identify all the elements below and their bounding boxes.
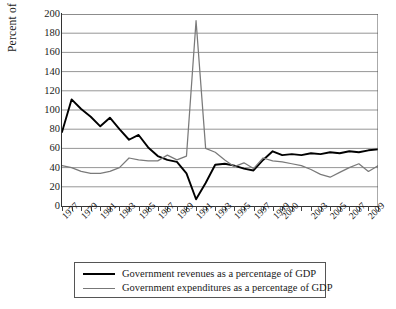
legend-item-revenues: Government revenues as a percentage of G… (83, 267, 319, 281)
y-axis-tick-labels: 020406080100120140160180200 (24, 8, 60, 212)
legend-swatch-expenditures (83, 288, 115, 289)
y-tick-label: 40 (24, 162, 60, 174)
y-tick-label: 100 (24, 104, 60, 116)
y-tick-label: 160 (24, 46, 60, 58)
x-axis-tick-labels: 1977197919811983198519871989199119931995… (0, 206, 396, 256)
y-tick-label: 80 (24, 123, 60, 135)
gridlines (62, 14, 378, 187)
legend-label-expenditures: Government expenditures as a percentage … (122, 281, 333, 295)
y-axis-title: Percent of GDP (6, 0, 20, 52)
chart-legend: Government revenues as a percentage of G… (74, 262, 326, 298)
y-tick-label: 200 (24, 8, 60, 20)
plot-area (62, 14, 378, 206)
y-tick-label: 20 (24, 181, 60, 193)
y-tick-label: 180 (24, 27, 60, 39)
series-line-expenditures (62, 21, 378, 177)
y-tick-label: 120 (24, 85, 60, 97)
chart-figure: Percent of GDP 0204060801001201401601802… (0, 0, 396, 309)
y-tick-label: 140 (24, 66, 60, 78)
chart-canvas (62, 14, 378, 206)
legend-swatch-revenues (83, 273, 115, 275)
y-axis-line (61, 13, 62, 207)
legend-label-revenues: Government revenues as a percentage of G… (122, 267, 316, 281)
y-tick-label: 60 (24, 142, 60, 154)
legend-item-expenditures: Government expenditures as a percentage … (83, 281, 319, 295)
series-line-revenues (62, 99, 378, 199)
